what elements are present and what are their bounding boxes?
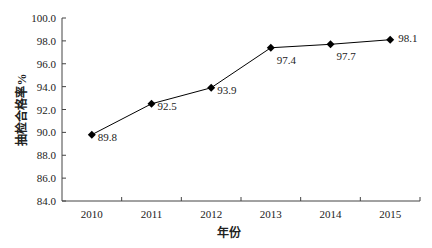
y-axis-title: 抽检合格率% xyxy=(14,74,29,146)
diamond-marker xyxy=(327,40,335,48)
diamond-marker xyxy=(207,84,215,92)
data-label: 97.4 xyxy=(277,54,297,66)
y-tick-label: 84.0 xyxy=(37,195,57,207)
line-chart: 84.086.088.090.092.094.096.098.0100.0201… xyxy=(0,0,432,248)
diamond-marker xyxy=(88,131,96,139)
x-tick-label: 2011 xyxy=(141,208,163,220)
y-tick-label: 86.0 xyxy=(37,172,57,184)
diamond-marker xyxy=(267,44,275,52)
y-tick-label: 100.0 xyxy=(31,12,56,24)
data-label: 93.9 xyxy=(217,84,237,96)
x-tick-label: 2012 xyxy=(200,208,222,220)
x-tick-label: 2013 xyxy=(260,208,283,220)
data-label: 97.7 xyxy=(337,50,357,62)
y-tick-label: 98.0 xyxy=(37,35,57,47)
y-tick-label: 88.0 xyxy=(37,149,57,161)
y-tick-label: 94.0 xyxy=(37,81,57,93)
y-tick-label: 96.0 xyxy=(37,58,57,70)
y-tick-label: 92.0 xyxy=(37,104,57,116)
x-tick-label: 2015 xyxy=(379,208,402,220)
x-axis-title: 年份 xyxy=(217,225,242,240)
data-label: 89.8 xyxy=(98,131,118,143)
data-label: 98.1 xyxy=(398,32,417,44)
y-tick-label: 90.0 xyxy=(37,126,57,138)
x-tick-label: 2014 xyxy=(320,208,343,220)
data-label: 92.5 xyxy=(158,100,178,112)
diamond-marker xyxy=(386,36,394,44)
diamond-marker xyxy=(148,100,156,108)
x-tick-label: 2010 xyxy=(81,208,104,220)
